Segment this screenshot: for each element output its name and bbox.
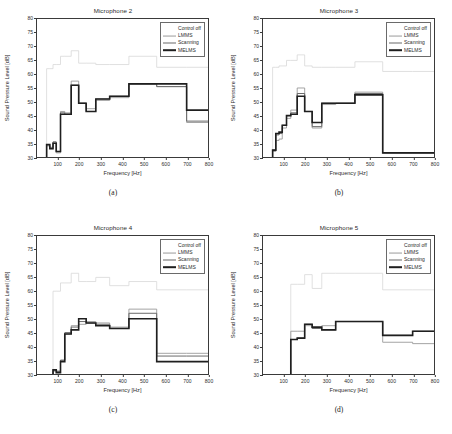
x-axis-tick: 800 <box>431 161 439 167</box>
legend-item[interactable]: Scanning <box>163 39 201 46</box>
subcaption: (d) <box>226 405 452 414</box>
legend-item[interactable]: MELMS <box>163 264 201 271</box>
tick-mark <box>101 158 102 161</box>
series-line <box>273 95 434 157</box>
tick-mark <box>34 116 37 117</box>
y-axis-tick: 45 <box>246 113 259 119</box>
legend-item[interactable]: Scanning <box>389 256 427 263</box>
y-axis-tick: 30 <box>20 155 33 161</box>
tick-mark <box>34 60 37 61</box>
tick-mark <box>34 46 37 47</box>
tick-mark <box>34 333 37 334</box>
tick-mark <box>34 74 37 75</box>
axes-b: Control offLMMSScanningMELMS <box>262 18 435 158</box>
plot-area-d: Sound Pressure Level [dB] Control offLMM… <box>226 232 452 402</box>
legend-label: MELMS <box>404 264 422 271</box>
legend-line-icon <box>389 256 402 263</box>
tick-mark <box>260 116 263 117</box>
y-axis-tick: 50 <box>246 316 259 322</box>
tick-mark <box>260 347 263 348</box>
tick-mark <box>166 375 167 378</box>
y-axis-tick: 40 <box>246 344 259 350</box>
x-axis-tick: 100 <box>53 378 61 384</box>
x-axis-tick: 400 <box>344 161 352 167</box>
tick-mark <box>101 375 102 378</box>
y-axis-tick: 55 <box>20 85 33 91</box>
y-axis-tick: 55 <box>246 85 259 91</box>
legend-item[interactable]: Control off <box>389 25 427 32</box>
y-axis-tick: 45 <box>20 330 33 336</box>
legend-item[interactable]: LMMS <box>389 32 427 39</box>
y-axis-tick: 50 <box>20 316 33 322</box>
tick-mark <box>34 158 37 159</box>
tick-mark <box>260 263 263 264</box>
legend-item[interactable]: MELMS <box>163 47 201 54</box>
legend-item[interactable]: Control off <box>163 242 201 249</box>
tick-mark <box>123 375 124 378</box>
tick-mark <box>34 32 37 33</box>
x-axis-tick: 700 <box>183 161 191 167</box>
y-axis-label: Sound Pressure Level [dB] <box>4 272 10 339</box>
y-axis-tick: 50 <box>246 99 259 105</box>
y-axis-tick: 65 <box>20 274 33 280</box>
tick-mark <box>123 158 124 161</box>
legend-label: Scanning <box>178 39 199 46</box>
axes-c: Control offLMMSScanningMELMS <box>36 235 209 375</box>
tick-mark <box>392 158 393 161</box>
tick-mark <box>34 130 37 131</box>
tick-mark <box>34 347 37 348</box>
tick-mark <box>349 158 350 161</box>
legend-item[interactable]: MELMS <box>389 47 427 54</box>
panel-d: Microphone 5 Sound Pressure Level [dB] C… <box>226 217 452 434</box>
x-axis-tick: 300 <box>323 161 331 167</box>
tick-mark <box>34 319 37 320</box>
x-axis-tick: 500 <box>366 161 374 167</box>
tick-mark <box>34 291 37 292</box>
x-axis-tick: 800 <box>431 378 439 384</box>
y-axis-tick: 40 <box>20 344 33 350</box>
tick-mark <box>187 158 188 161</box>
legend-item[interactable]: Control off <box>389 242 427 249</box>
chart-legend: Control offLMMSScanningMELMS <box>160 239 205 274</box>
y-axis-tick: 75 <box>20 29 33 35</box>
tick-mark <box>260 102 263 103</box>
tick-mark <box>58 158 59 161</box>
x-axis-label: Frequency [Hz] <box>36 387 209 393</box>
tick-mark <box>260 249 263 250</box>
tick-mark <box>260 235 263 236</box>
x-axis-tick: 200 <box>301 378 309 384</box>
y-axis-tick: 80 <box>20 232 33 238</box>
legend-line-icon <box>389 249 402 256</box>
legend-label: LMMS <box>404 249 418 256</box>
y-axis-tick: 70 <box>20 43 33 49</box>
legend-item[interactable]: LMMS <box>389 249 427 256</box>
legend-label: Control off <box>178 25 201 32</box>
legend-line-icon <box>163 256 176 263</box>
legend-item[interactable]: Scanning <box>389 39 427 46</box>
panel-a: Microphone 2 Sound Pressure Level [dB] C… <box>0 0 226 217</box>
legend-item[interactable]: LMMS <box>163 32 201 39</box>
tick-mark <box>34 144 37 145</box>
legend-item[interactable]: MELMS <box>389 264 427 271</box>
panel-b: Microphone 3 Sound Pressure Level [dB] C… <box>226 0 452 217</box>
legend-label: LMMS <box>404 32 418 39</box>
plot-area-b: Sound Pressure Level [dB] Control offLMM… <box>226 15 452 185</box>
x-axis-tick: 600 <box>388 161 396 167</box>
legend-label: LMMS <box>178 32 192 39</box>
x-axis-tick: 200 <box>301 161 309 167</box>
legend-line-icon <box>163 39 176 46</box>
x-axis-tick: 700 <box>183 378 191 384</box>
y-axis-tick: 35 <box>246 358 259 364</box>
y-axis-tick: 60 <box>20 288 33 294</box>
tick-mark <box>260 305 263 306</box>
tick-mark <box>166 158 167 161</box>
legend-item[interactable]: Control off <box>163 25 201 32</box>
legend-item[interactable]: Scanning <box>163 256 201 263</box>
tick-mark <box>284 158 285 161</box>
legend-item[interactable]: LMMS <box>163 249 201 256</box>
legend-label: Control off <box>404 25 427 32</box>
y-axis-tick: 40 <box>246 127 259 133</box>
y-axis-tick: 45 <box>20 113 33 119</box>
tick-mark <box>392 375 393 378</box>
series-line <box>291 322 434 374</box>
